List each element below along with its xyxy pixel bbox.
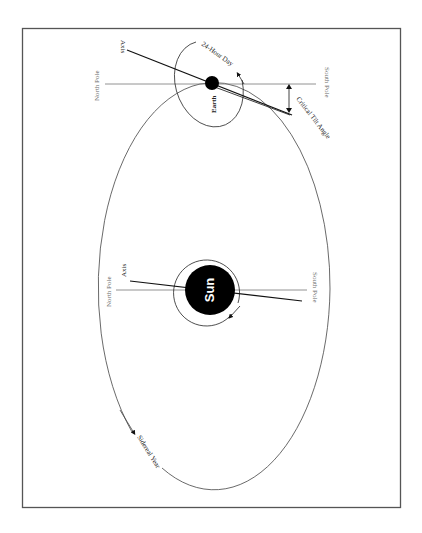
sun-south-pole-label: South Pole (311, 272, 319, 303)
earth-label: Earth (210, 95, 218, 113)
earth-south-pole-label: South Pole (323, 67, 331, 98)
earth-icon (205, 76, 219, 90)
tilt-angle-arrow (286, 84, 292, 113)
sun-label: Sun (202, 278, 217, 303)
orbit-diagram: Sidereal Year North Pole South Pole 24-H… (0, 0, 422, 533)
sidereal-year-label: Sidereal Year (135, 434, 162, 470)
earth-north-pole-label: North Pole (93, 70, 101, 101)
sun-north-pole-label: North Pole (105, 276, 113, 307)
earth-axis-label: Axis (119, 40, 127, 54)
earth-axis-line-2 (212, 86, 290, 115)
day-label: 24-Hour Day (200, 40, 235, 68)
tilt-angle-label: Critical Tilt Angle (294, 95, 332, 140)
sun-axis-label: Axis (120, 264, 128, 278)
